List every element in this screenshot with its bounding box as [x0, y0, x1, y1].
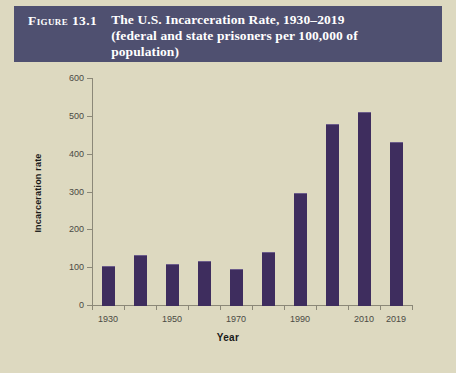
y-axis-tick	[87, 78, 92, 79]
y-axis-tick-label: 300	[69, 187, 84, 197]
axis-area: 0100200300400500600 19301950197019902010…	[92, 78, 412, 306]
x-axis-tick	[284, 305, 285, 310]
figure-title-line-1: The U.S. Incarceration Rate, 1930–2019	[111, 12, 358, 28]
bar	[326, 124, 339, 306]
x-axis-tick-label: 2019	[386, 314, 406, 324]
x-axis-tick	[316, 305, 317, 310]
x-axis-tick	[92, 305, 93, 310]
y-axis-tick-label: 400	[69, 149, 84, 159]
x-axis-tick	[188, 305, 189, 310]
y-axis-line	[92, 78, 93, 306]
x-axis-tick-label: 1930	[98, 314, 118, 324]
y-axis-tick	[87, 267, 92, 268]
plot-frame: Incarceration rate Year 0100200300400500…	[20, 70, 436, 358]
y-axis-tick-label: 500	[69, 111, 84, 121]
x-axis-tick-label: 1970	[226, 314, 246, 324]
y-axis-tick	[87, 116, 92, 117]
bar	[102, 266, 115, 306]
bar	[390, 142, 403, 306]
y-axis-tick-label: 100	[69, 262, 84, 272]
figure-title-banner: Figure 13.1 The U.S. Incarceration Rate,…	[14, 6, 442, 62]
figure-title-text: The U.S. Incarceration Rate, 1930–2019 (…	[111, 12, 358, 60]
figure-container: Figure 13.1 The U.S. Incarceration Rate,…	[0, 0, 456, 373]
y-axis-tick-label: 200	[69, 224, 84, 234]
y-axis-title: Incarceration rate	[33, 133, 43, 253]
x-axis-tick	[252, 305, 253, 310]
bar	[230, 269, 243, 306]
x-axis-tick	[156, 305, 157, 310]
x-axis-tick	[412, 305, 413, 310]
figure-title-line-3: population)	[111, 44, 358, 60]
figure-number-label: Figure 13.1	[28, 12, 97, 29]
y-axis-tick-label: 600	[69, 73, 84, 83]
y-axis-tick	[87, 229, 92, 230]
x-axis-tick	[124, 305, 125, 310]
bar	[198, 261, 211, 306]
x-axis-tick	[380, 305, 381, 310]
bar	[294, 193, 307, 306]
x-axis-tick	[220, 305, 221, 310]
y-axis-tick	[87, 154, 92, 155]
bar	[262, 252, 275, 306]
x-axis-title: Year	[20, 332, 436, 343]
x-axis-tick	[348, 305, 349, 310]
x-axis-tick-label: 2010	[354, 314, 374, 324]
bar	[166, 264, 179, 306]
y-axis-tick-label: 0	[79, 300, 84, 310]
figure-title-line-2: (federal and state prisoners per 100,000…	[111, 28, 358, 44]
bar	[134, 255, 147, 306]
x-axis-tick-label: 1990	[290, 314, 310, 324]
x-axis-tick-label: 1950	[162, 314, 182, 324]
bar	[358, 112, 371, 306]
y-axis-tick	[87, 192, 92, 193]
